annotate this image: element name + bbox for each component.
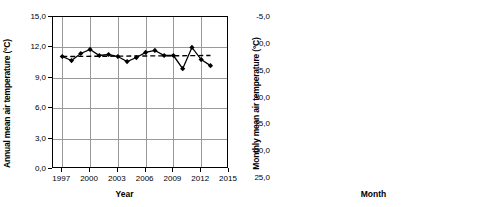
x-tick-label: 2006 (136, 174, 154, 183)
y-tick-label: 25,0 (224, 173, 270, 182)
y-tick-label: 20,0 (224, 146, 270, 155)
x-tick-label: 1997 (52, 174, 70, 183)
panel-monthly-mean-temperature: Monthly mean air temperature (°C) 25,020… (249, 0, 498, 207)
figure-two-panel-temperature-charts: Annual mean air temperature (°C) 0,03,06… (0, 0, 498, 207)
y-tick-label: 15,0 (10, 12, 46, 21)
data-point-marker (125, 59, 130, 64)
y-tick-label: 10,0 (224, 92, 270, 101)
y-tick-label: 6,0 (10, 103, 46, 112)
y-tick-label: -5,0 (224, 12, 270, 21)
x-tick-label: 2012 (191, 174, 209, 183)
y-tick-label: 3,0 (10, 133, 46, 142)
panel-annual-mean-temperature: Annual mean air temperature (°C) 0,03,06… (0, 0, 249, 207)
right-x-axis-label: Month (249, 189, 498, 199)
data-point-marker (143, 50, 148, 55)
x-tick-label: 2009 (164, 174, 182, 183)
data-point-marker (152, 48, 157, 53)
x-tick-label: 2003 (108, 174, 126, 183)
left-series-svg (53, 17, 229, 169)
left-plot-area (52, 16, 228, 168)
y-tick-label: 12,0 (10, 42, 46, 51)
y-tick-label: 15,0 (224, 119, 270, 128)
y-tick-label: 0,0 (10, 164, 46, 173)
x-tick-label: 2000 (80, 174, 98, 183)
y-tick-label: 0,0 (224, 38, 270, 47)
y-tick-label: 5,0 (224, 65, 270, 74)
y-tick-label: 9,0 (10, 72, 46, 81)
y-tick-mark (48, 168, 52, 169)
left-x-axis-label: Year (0, 189, 249, 199)
